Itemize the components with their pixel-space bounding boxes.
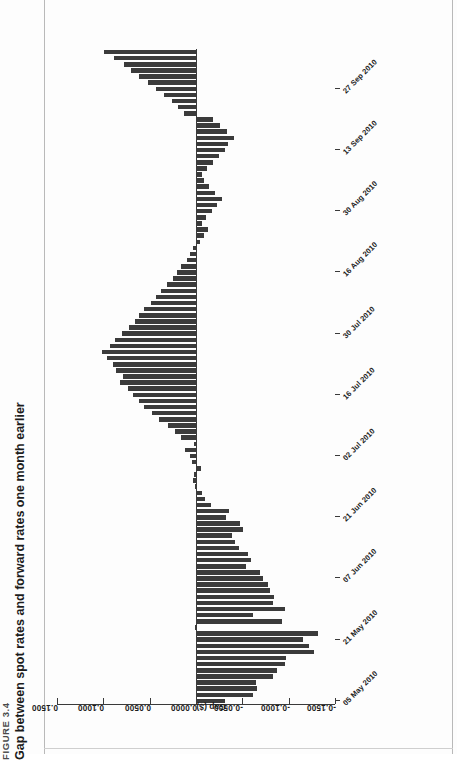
bar [196, 148, 225, 153]
value-tick [335, 49, 336, 704]
bar [196, 515, 226, 520]
bar [139, 399, 196, 404]
bar [184, 111, 196, 116]
figure-title: Gap between spot rates and forward rates… [13, 420, 28, 760]
bar [196, 631, 318, 636]
bar [196, 497, 205, 502]
category-label: 13 Sep 2010 [341, 118, 379, 156]
bar-chart: 0.15000.10000.05000.0000-0.0500-0.1000-0… [45, 32, 411, 722]
value-tick-label: 0.0000 [171, 703, 197, 712]
plot-area: 0.15000.10000.05000.0000-0.0500-0.1000-0… [57, 49, 335, 704]
bar [124, 62, 196, 67]
bar [196, 668, 277, 673]
bar [115, 338, 196, 343]
bar [196, 117, 213, 122]
category-label: 02 Jul 2010 [341, 427, 377, 463]
bar [181, 264, 196, 269]
category-tick-mark [335, 639, 340, 640]
category-tick-mark [335, 700, 340, 701]
bar [128, 386, 196, 391]
bar [196, 123, 220, 128]
bar [110, 344, 196, 349]
bar [196, 607, 285, 612]
category-tick-mark [335, 333, 340, 334]
bar [167, 282, 196, 287]
category-label: 21 Jun 2010 [341, 486, 379, 524]
bar [152, 411, 196, 416]
category-tick-mark [335, 88, 340, 89]
bar [196, 582, 268, 587]
bar [139, 74, 196, 79]
category-label: 16 Aug 2010 [341, 240, 379, 278]
bar [178, 105, 196, 110]
value-tick [242, 49, 243, 704]
bar [196, 166, 207, 171]
category-label: 05 May 2010 [341, 669, 379, 707]
bar [196, 576, 263, 581]
bar [196, 178, 204, 183]
bar [129, 325, 196, 330]
bar [196, 680, 256, 685]
value-tick-label: 0.0500 [124, 703, 150, 712]
bar [196, 527, 243, 532]
bar [131, 68, 196, 73]
bar [196, 662, 285, 667]
bar [139, 313, 196, 318]
bar [196, 191, 215, 196]
bar [196, 142, 228, 147]
bar [196, 533, 232, 538]
category-tick-mark [335, 271, 340, 272]
bar [196, 595, 274, 600]
value-tick [196, 49, 197, 704]
bar [196, 686, 257, 691]
bar [164, 93, 196, 98]
bar [196, 154, 219, 159]
bar [116, 368, 196, 373]
bar [196, 656, 286, 661]
bar [196, 674, 273, 679]
value-tick [57, 49, 58, 704]
value-tick-label: 0.1500 [32, 703, 58, 712]
bar [196, 540, 235, 545]
bar [196, 215, 206, 220]
bar [173, 276, 196, 281]
page-rule-bottom [44, 748, 453, 749]
category-tick-mark [335, 394, 340, 395]
bar [156, 87, 196, 92]
bar [196, 693, 253, 698]
bar [196, 613, 253, 618]
bar [161, 289, 196, 294]
category-tick-mark [335, 210, 340, 211]
bar [196, 619, 282, 624]
bar [144, 405, 196, 410]
bar [175, 429, 196, 434]
value-axis-title: Gap ($) [196, 702, 226, 712]
category-label: 30 Aug 2010 [341, 179, 379, 217]
category-label: 16 Jul 2010 [341, 365, 377, 401]
bar [196, 136, 234, 141]
bar [168, 423, 196, 428]
category-label: 07 Jun 2010 [341, 547, 379, 585]
value-tick [150, 49, 151, 704]
bar [196, 589, 270, 594]
value-tick [289, 49, 290, 704]
bar [196, 503, 211, 508]
chart-inner: 0.15000.10000.05000.0000-0.0500-0.1000-0… [45, 32, 411, 722]
bar [122, 331, 196, 336]
bar [196, 637, 303, 642]
bar [196, 570, 260, 575]
figure-number: FIGURE 3.4 [0, 420, 12, 760]
category-label: 21 May 2010 [341, 608, 379, 646]
category-tick-mark [335, 149, 340, 150]
bar [196, 521, 240, 526]
bar [113, 362, 196, 367]
bar [177, 270, 196, 275]
category-tick-mark [335, 516, 340, 517]
value-tick-label: 0.1000 [78, 703, 104, 712]
bar [196, 227, 208, 232]
bar [196, 203, 217, 208]
bar [120, 380, 196, 385]
bar [135, 319, 196, 324]
bar [196, 129, 227, 134]
